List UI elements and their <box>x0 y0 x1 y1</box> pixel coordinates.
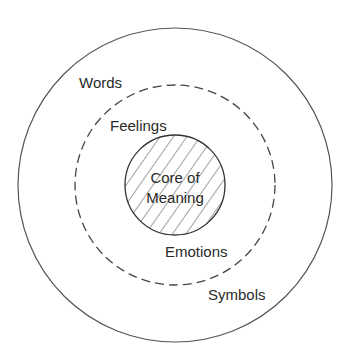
concentric-diagram: Words Feelings Core of Meaning Emotions … <box>0 0 350 364</box>
diagram-canvas: Words Feelings Core of Meaning Emotions … <box>0 0 350 364</box>
label-feelings: Feelings <box>110 117 167 134</box>
label-symbols: Symbols <box>208 286 266 303</box>
label-core-line2: Meaning <box>146 189 204 206</box>
label-words: Words <box>79 74 122 91</box>
label-emotions: Emotions <box>165 243 228 260</box>
label-core-line1: Core of <box>150 169 200 186</box>
